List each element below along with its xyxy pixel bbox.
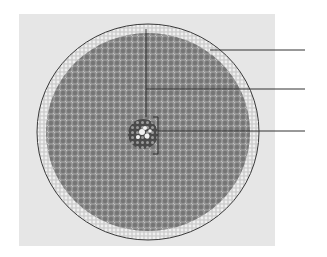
root-cross-section-diagram [0,0,327,257]
